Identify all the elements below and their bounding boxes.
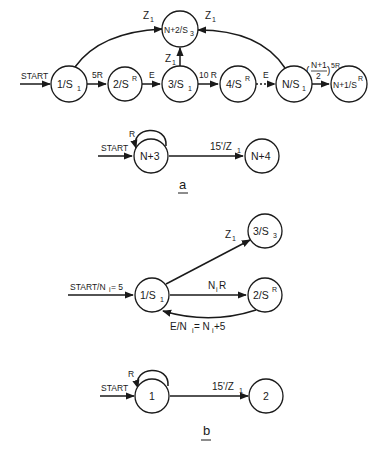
svg-text:15'/Z: 15'/Z — [210, 141, 232, 152]
svg-text:1/S: 1/S — [140, 289, 156, 301]
state-node-b-1-s1: 1/S 1 — [135, 278, 169, 312]
svg-text:R: R — [132, 75, 137, 82]
svg-text:1: 1 — [188, 85, 192, 92]
svg-text:1: 1 — [172, 59, 176, 66]
svg-text:2: 2 — [316, 71, 321, 81]
svg-text:Z: Z — [205, 10, 211, 21]
svg-text:1: 1 — [77, 85, 81, 92]
svg-text:N+2/S: N+2/S — [164, 25, 188, 35]
svg-text:1: 1 — [232, 235, 236, 242]
part-a-main-chain: START 5R E 10 R E ( N+1 2 ) 5R Z 1 Z 1 — [20, 10, 367, 102]
state-node-n-plus-1-sr: N+1/S R — [331, 66, 367, 102]
svg-text:1: 1 — [239, 387, 243, 394]
svg-text:4/S: 4/S — [226, 78, 242, 90]
state-node-3-s1: 3/S 1 — [162, 66, 198, 102]
edge-b2-to-b1 — [163, 310, 256, 318]
svg-text:3: 3 — [273, 232, 277, 239]
svg-text:1: 1 — [237, 147, 241, 154]
svg-text:15'/Z: 15'/Z — [212, 381, 234, 392]
svg-text:R: R — [219, 280, 226, 291]
state-node-b-2-sr: 2/S R — [248, 278, 282, 312]
edge-label-15-z1-a: 15'/Z 1 — [210, 141, 241, 154]
edge-label-e2: E — [263, 70, 269, 80]
svg-text:1: 1 — [302, 85, 306, 92]
edge-label-r-loop-b: R — [128, 369, 134, 379]
svg-text:N+4: N+4 — [251, 150, 271, 162]
svg-text:Z: Z — [165, 53, 171, 64]
edge-label-start: START — [21, 71, 48, 81]
edge-1-to-n2 — [75, 29, 162, 67]
edge-label-z1-left: Z 1 — [143, 10, 154, 23]
state-node-4-sr: 4/S R — [220, 66, 256, 102]
svg-text:N+1: N+1 — [311, 60, 327, 70]
svg-text:1: 1 — [212, 16, 216, 23]
edge-label-5r: 5R — [92, 70, 103, 80]
edge-label-z1-right: Z 1 — [205, 10, 216, 23]
edge-n-to-n2 — [198, 30, 285, 68]
part-a-timer-chain: START R 15'/Z 1 N+3 N+4 a — [98, 129, 279, 193]
section-label-b: b — [201, 423, 211, 440]
part-b-main-chain: START/N i = 5 N i R E/N i = N i +5 Z 1 1… — [68, 214, 282, 334]
state-node-bt-1: 1 — [135, 379, 169, 413]
svg-text:2/S: 2/S — [253, 289, 269, 301]
svg-text:Z: Z — [143, 10, 149, 21]
svg-text:N: N — [208, 280, 215, 291]
edge-b1-to-b3 — [166, 240, 250, 284]
state-diagram: START 5R E 10 R E ( N+1 2 ) 5R Z 1 Z 1 — [0, 0, 387, 454]
svg-text:Z: Z — [225, 229, 231, 240]
state-node-n-plus-3: N+3 — [134, 139, 168, 173]
state-node-1-s1: 1/S 1 — [51, 66, 87, 102]
svg-text:1: 1 — [149, 390, 155, 402]
svg-text:1/S: 1/S — [57, 78, 73, 90]
svg-text:N+1/S: N+1/S — [333, 80, 357, 90]
state-node-2-sr: 2/S R — [108, 67, 142, 101]
svg-text:3/S: 3/S — [253, 225, 269, 237]
svg-text:R: R — [245, 75, 250, 82]
edge-label-e-ni: E/N i = N i +5 — [170, 321, 226, 334]
edge-label-z1-mid: Z 1 — [165, 53, 176, 66]
state-node-n-plus-2-s3: N+2/S 3 — [162, 11, 198, 47]
edge-label-e1: E — [149, 70, 155, 80]
edge-label-start-timer-b: START — [101, 383, 128, 393]
edge-label-start-ni: START/N i = 5 — [70, 282, 123, 293]
svg-text:= N: = N — [194, 321, 210, 332]
edge-label-ni-r: N i R — [208, 280, 226, 293]
state-node-n-s1: N/S 1 — [276, 66, 312, 102]
edge-label-z1-b: Z 1 — [225, 229, 236, 242]
svg-text:5R: 5R — [331, 62, 340, 69]
svg-text:2: 2 — [263, 390, 269, 402]
edge-label-15-z1-b: 15'/Z 1 — [212, 381, 243, 394]
svg-text:= 5: = 5 — [111, 282, 123, 292]
svg-text:a: a — [179, 177, 187, 192]
svg-text:1: 1 — [150, 16, 154, 23]
svg-text:b: b — [203, 423, 210, 438]
state-node-b-3-s3: 3/S 3 — [248, 214, 282, 248]
state-node-bt-2: 2 — [249, 379, 283, 413]
svg-text:E/N: E/N — [170, 321, 187, 332]
svg-text:START/N: START/N — [70, 282, 106, 292]
svg-text:R: R — [358, 75, 363, 82]
edge-label-r-loop-a: R — [129, 129, 135, 139]
svg-text:N+3: N+3 — [140, 150, 160, 162]
svg-text:+5: +5 — [214, 321, 226, 332]
svg-text:i: i — [216, 286, 218, 293]
section-label-a: a — [178, 177, 188, 193]
svg-text:N/S: N/S — [282, 78, 300, 90]
svg-text:3: 3 — [190, 30, 194, 37]
part-b-timer-chain: START R 15'/Z 1 1 2 b — [100, 369, 283, 440]
edge-label-start-timer-a: START — [101, 143, 128, 153]
edge-label-10r: 10 R — [199, 70, 217, 80]
svg-text:2/S: 2/S — [113, 78, 129, 90]
svg-text:R: R — [272, 286, 277, 293]
svg-text:3/S: 3/S — [168, 78, 184, 90]
state-node-n-plus-4: N+4 — [245, 139, 279, 173]
svg-text:1: 1 — [160, 296, 164, 303]
svg-text:): ) — [327, 65, 330, 76]
